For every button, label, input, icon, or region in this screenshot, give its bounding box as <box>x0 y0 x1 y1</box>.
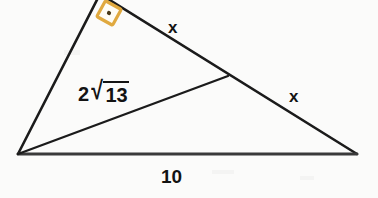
label-cevian-length: 2√13 <box>78 80 129 105</box>
label-side-upper-x: x <box>168 19 177 36</box>
triangle-drawing <box>0 0 378 198</box>
radical-radicand: 13 <box>103 81 128 105</box>
geometry-figure-screenshot: x x 2√13 10 <box>0 0 378 198</box>
label-side-lower-x: x <box>289 88 298 105</box>
left-leg-line <box>18 0 100 154</box>
label-base-length: 10 <box>161 167 182 186</box>
radical-coefficient: 2 <box>78 80 89 104</box>
radical-sign-icon: √ <box>91 80 103 100</box>
